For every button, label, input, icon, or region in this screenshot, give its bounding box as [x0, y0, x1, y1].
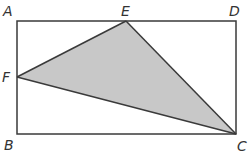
- label-d: D: [229, 3, 240, 19]
- label-a: A: [2, 3, 13, 19]
- label-b: B: [4, 137, 14, 153]
- label-c: C: [237, 138, 247, 154]
- label-f: F: [2, 69, 11, 85]
- label-e: E: [121, 3, 130, 19]
- geometry-diagram: A E D F B C: [0, 0, 251, 160]
- shaded-triangle-efc: [17, 21, 236, 134]
